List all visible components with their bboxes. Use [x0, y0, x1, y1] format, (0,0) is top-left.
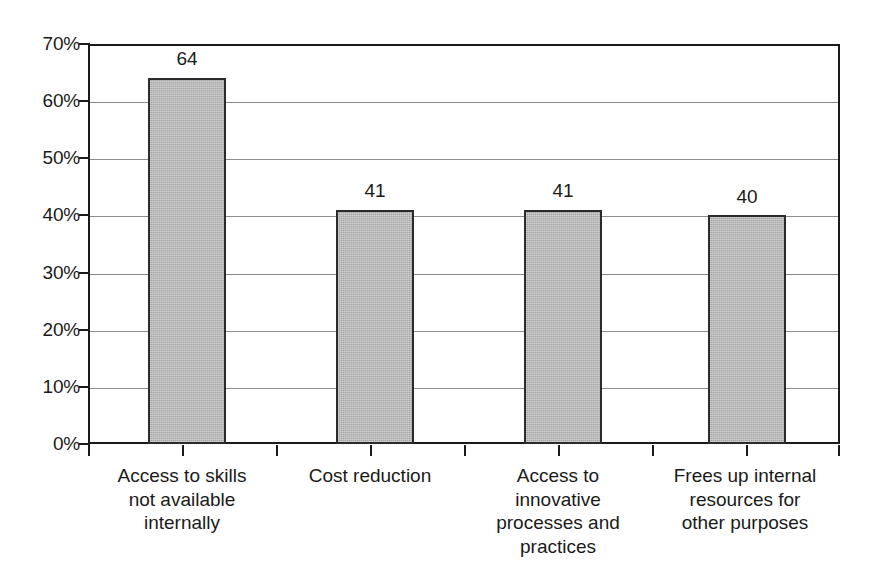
y-axis: 70% 60% 50% 40% 30% 20% 10% 0% [0, 44, 80, 444]
y-tick-label-70: 70% [14, 34, 80, 53]
bar-access-to-skills[interactable] [148, 78, 226, 444]
bar-value-label-1: 64 [148, 49, 226, 68]
x-tick-mark-0 [88, 445, 90, 456]
x-tick-mark-7 [746, 445, 748, 456]
x-tick-mark-3 [370, 445, 372, 456]
x-axis-label-access-to-skills: Access to skills not available internall… [88, 464, 276, 535]
y-tick-label-50: 50% [14, 148, 80, 167]
x-tick-mark-5 [558, 445, 560, 456]
bar-value-label-4: 40 [708, 187, 786, 206]
y-tick-label-40: 40% [14, 205, 80, 224]
y-tick-label-0: 0% [14, 434, 80, 453]
bar-chart: 70% 60% 50% 40% 30% 20% 10% 0% 64 41 41 … [0, 0, 872, 579]
x-axis-label-cost-reduction: Cost reduction [276, 464, 464, 488]
bar-frees-up-internal[interactable] [708, 215, 786, 444]
bar-access-to-innovative[interactable] [524, 210, 602, 444]
y-tick-label-60: 60% [14, 91, 80, 110]
bars-layer [88, 44, 840, 444]
y-tick-label-10: 10% [14, 377, 80, 396]
y-tick-label-20: 20% [14, 320, 80, 339]
x-tick-mark-2 [276, 445, 278, 456]
bar-cost-reduction[interactable] [336, 210, 414, 444]
x-tick-mark-4 [464, 445, 466, 456]
x-axis-label-frees-up-internal: Frees up internal resources for other pu… [650, 464, 840, 535]
x-tick-mark-1 [182, 445, 184, 456]
x-tick-mark-8 [838, 445, 840, 456]
x-axis-label-access-to-innovative: Access to innovative processes and pract… [464, 464, 652, 558]
bar-value-label-2: 41 [336, 181, 414, 200]
y-tick-label-30: 30% [14, 263, 80, 282]
bar-value-label-3: 41 [524, 181, 602, 200]
x-tick-mark-6 [652, 445, 654, 456]
